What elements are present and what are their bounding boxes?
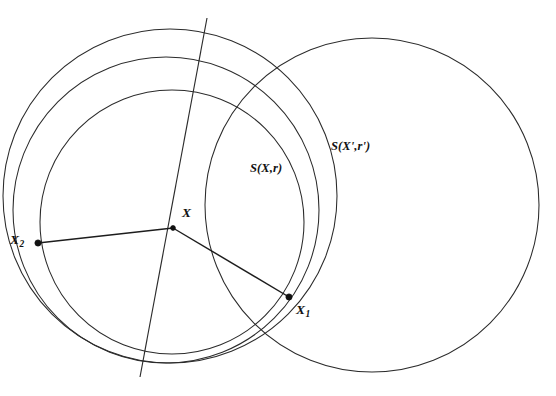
label-point-x2-subscript: 2 bbox=[20, 239, 25, 249]
point-x2-dot bbox=[35, 240, 41, 246]
label-point-x2: X2 bbox=[10, 233, 24, 247]
label-sphere-s-x-prime-r-prime: S(X',r') bbox=[331, 140, 370, 153]
circle-s-x-r bbox=[40, 90, 304, 354]
figure-canvas bbox=[0, 0, 556, 396]
circle-s-x-prime-r-prime bbox=[205, 38, 539, 372]
label-point-x1: X1 bbox=[296, 303, 310, 317]
circle-middle bbox=[13, 57, 319, 363]
geometry-figure: X X1 X2 S(X,r) S(X',r') bbox=[0, 0, 556, 396]
label-point-x1-subscript: 1 bbox=[306, 309, 311, 319]
label-sphere-s-x-r: S(X,r) bbox=[250, 162, 282, 175]
point-x-dot bbox=[171, 226, 176, 231]
oblique-line bbox=[140, 18, 207, 377]
label-point-x1-base: X bbox=[296, 302, 305, 317]
segment-center-to-x1 bbox=[173, 228, 289, 297]
label-point-x2-base: X bbox=[10, 232, 19, 247]
point-x1-dot bbox=[286, 294, 292, 300]
label-point-x: X bbox=[182, 206, 191, 220]
segment-center-to-x2 bbox=[38, 228, 173, 243]
